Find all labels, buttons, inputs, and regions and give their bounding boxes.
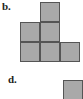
figure-cell [20, 42, 40, 62]
figure-cell [60, 42, 80, 62]
figure-cell [20, 22, 40, 42]
figure-cell [40, 22, 60, 42]
figure-cell [63, 80, 83, 99]
figure-options-canvas: b. d. [0, 0, 83, 99]
option-b-figure[interactable] [20, 2, 80, 62]
figure-cell [40, 2, 60, 22]
figure-cell [40, 42, 60, 62]
option-d-figure[interactable] [63, 80, 83, 99]
option-b-label: b. [2, 1, 11, 12]
option-d-label: d. [8, 74, 17, 85]
